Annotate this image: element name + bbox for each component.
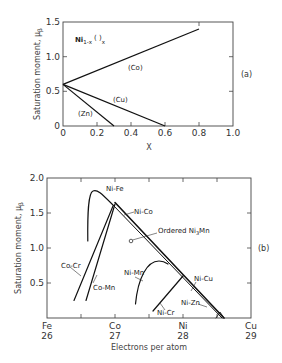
y-tick-label: 1.0 bbox=[30, 243, 45, 253]
ticks-b bbox=[47, 178, 251, 318]
y-tick-label: 0.5 bbox=[30, 278, 44, 288]
x-tick-label: 0.4 bbox=[124, 128, 139, 138]
y-tick-label: 1.0 bbox=[46, 52, 61, 62]
label-ni-cr: Ni-Cr bbox=[157, 309, 175, 317]
label-zn: (Zn) bbox=[78, 110, 93, 118]
line-ni-co-inner bbox=[113, 205, 222, 318]
y-tick-label: 0.5 bbox=[46, 86, 60, 96]
y-axis-title: Saturation moment, μβ bbox=[33, 28, 44, 120]
y-tick-label: 1.5 bbox=[30, 208, 44, 218]
x-tick-label: 0.8 bbox=[192, 128, 207, 138]
line-ni-mn bbox=[136, 261, 169, 304]
chart-a: 0 0.2 0.4 0.6 0.8 1.0 0 0.5 1.0 1.5 X Sa… bbox=[33, 17, 252, 152]
label-ni-fe: Ni-Fe bbox=[106, 185, 124, 193]
y-tick-label: 2.0 bbox=[30, 173, 45, 183]
line-ni-cr bbox=[153, 276, 183, 311]
x-tick-label: 0 bbox=[60, 128, 66, 138]
label-ordered-ni3mn: Ordered Ni3Mn bbox=[158, 227, 210, 236]
x-axis-title: X bbox=[146, 143, 152, 152]
line-cu bbox=[63, 84, 165, 126]
label-co: (Co) bbox=[128, 64, 143, 72]
x-tick-label: 29 bbox=[245, 331, 257, 341]
x-tick-label: 1.0 bbox=[226, 128, 241, 138]
line-zn bbox=[63, 84, 114, 126]
line-co bbox=[63, 29, 199, 84]
x-tick-element: Cu bbox=[245, 321, 257, 331]
label-ni-zn: Ni-Zn bbox=[181, 299, 200, 307]
x-tick-label: 27 bbox=[109, 331, 120, 341]
y-tick-label: 1.5 bbox=[46, 17, 60, 27]
x-tick-element: Co bbox=[109, 321, 121, 331]
x-tick-element: Ni bbox=[178, 321, 187, 331]
label-cu: (Cu) bbox=[113, 96, 128, 104]
label-co-mn: Co-Mn bbox=[93, 284, 115, 292]
point-ordered-ni3mn bbox=[129, 239, 133, 243]
label-ni-co: Ni-Co bbox=[134, 208, 153, 216]
y-axis-title: Saturation moment, μβ bbox=[14, 202, 25, 294]
figure: 0 0.2 0.4 0.6 0.8 1.0 0 0.5 1.0 1.5 X Sa… bbox=[0, 0, 282, 363]
x-tick-label: 0.2 bbox=[90, 128, 104, 138]
label-ni-mn: Ni-Mn bbox=[124, 269, 144, 277]
line-ni-co-main bbox=[115, 203, 224, 319]
x-tick-element: Fe bbox=[42, 321, 53, 331]
x-tick-label: 28 bbox=[177, 331, 189, 341]
chart-b: 2.0 1.5 1.0 0.5 Fe Co Ni Cu 26 27 28 29 … bbox=[14, 173, 269, 352]
label-ni-cu: Ni-Cu bbox=[194, 275, 213, 283]
y-tick-label: 0 bbox=[54, 121, 60, 131]
x-tick-label: 26 bbox=[41, 331, 53, 341]
x-tick-label: 0.6 bbox=[158, 128, 173, 138]
panel-label-a: (a) bbox=[241, 70, 252, 79]
x-axis-title: Electrons per atom bbox=[111, 343, 187, 352]
plot-frame-b bbox=[47, 178, 251, 318]
panel-label-b: (b) bbox=[258, 244, 269, 253]
formula-label: Ni1-x( )x bbox=[75, 34, 106, 45]
label-co-cr: Co-Cr bbox=[61, 262, 81, 270]
